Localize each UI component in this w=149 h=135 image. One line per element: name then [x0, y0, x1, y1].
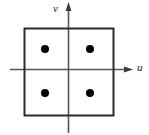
u-axis-group — [10, 67, 133, 73]
arrow-up-icon — [66, 2, 72, 11]
v-axis-label: v — [53, 3, 58, 14]
u-axis-label: u — [137, 62, 143, 73]
data-point — [86, 89, 94, 97]
arrow-right-icon — [124, 67, 133, 73]
data-point — [41, 89, 49, 97]
data-point — [86, 45, 94, 53]
uv-plane-figure: v u — [0, 0, 149, 135]
v-axis-group — [66, 2, 72, 133]
data-point — [41, 45, 49, 53]
figure-canvas — [0, 0, 149, 135]
